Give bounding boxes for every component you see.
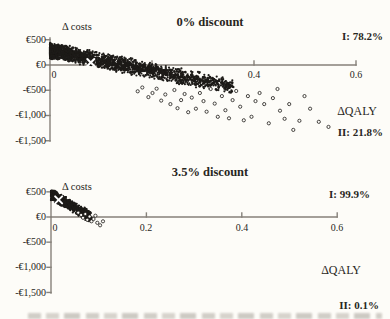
outlier-points <box>136 86 330 132</box>
y-tick-label: €500 <box>0 35 46 45</box>
x-tick-label: 0.6 <box>325 223 349 233</box>
axis-lines <box>47 191 337 293</box>
y-tick-label: €0 <box>0 212 46 222</box>
y-tick-label: -€1,000 <box>0 110 46 120</box>
x-tick-label: 0 <box>42 70 66 80</box>
y-axis-label-0pct: Δ costs <box>62 22 92 32</box>
x-axis-label-3-5pct: ΔQALY <box>321 265 361 275</box>
chart-1 <box>47 190 337 293</box>
y-tick-label: -€1,500 <box>0 288 46 298</box>
y-tick-label: -€500 <box>0 85 46 95</box>
x-tick-label: 0.4 <box>242 70 266 80</box>
quadrant-2-label: II: 21.8% <box>338 127 383 137</box>
x-tick-label: 0.6 <box>344 70 368 80</box>
y-tick-label: -€1,000 <box>0 262 46 272</box>
figure-ce-planes: 0% discount Δ costs €500 €0 -€500 -€1,00… <box>0 0 390 319</box>
x-axis-label-0pct: ΔQALY <box>337 106 377 116</box>
cutoff-caption-strip <box>28 313 382 319</box>
x-tick-label: 0 <box>43 223 67 233</box>
y-tick-label: -€1,500 <box>0 136 46 146</box>
quadrant-1-label: I: 99.9% <box>329 189 370 199</box>
y-tick-label: -€500 <box>0 237 46 247</box>
quadrant-2-label: II: 0.1% <box>339 300 379 310</box>
x-tick-label: 0.4 <box>230 223 254 233</box>
y-axis-label-3-5pct: Δ costs <box>62 182 92 192</box>
y-tick-label: €0 <box>0 60 46 70</box>
quadrant-1-label: I: 78.2% <box>342 31 383 41</box>
chart-0 <box>46 38 356 141</box>
y-tick-label: €500 <box>0 187 46 197</box>
chart-title-3-5pct: 3.5% discount <box>30 166 390 179</box>
x-tick-label: 0.2 <box>134 223 158 233</box>
